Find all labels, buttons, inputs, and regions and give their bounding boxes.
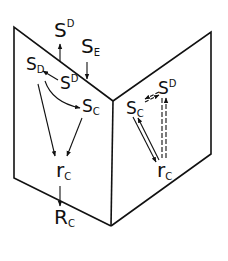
node-S-sub-C-right: SC (126, 100, 144, 117)
arrow-SC-to-rC-solid (133, 117, 156, 162)
label-base: r (157, 158, 165, 182)
label-base: S (60, 73, 71, 93)
label-base: S (54, 18, 67, 42)
folded-panel-diagram (0, 0, 228, 261)
node-S-sup-D-left: SD (60, 75, 79, 92)
label-sub: C (93, 106, 100, 117)
label-S-sub-E-outside: SE (81, 36, 100, 56)
label-sub: E (94, 47, 100, 58)
node-r-sub-C-left: rC (56, 160, 71, 180)
label-sub: C (137, 108, 144, 119)
fold-line (111, 101, 113, 226)
label-base: S (126, 98, 137, 118)
node-S-sub-C-left: SC (82, 98, 100, 115)
label-base: S (82, 96, 93, 116)
label-S-sup-D-outside: SD (54, 20, 74, 40)
label-R-sub-C-outside: RC (54, 207, 75, 227)
label-base: S (81, 34, 94, 58)
arrow-SC-to-rC (67, 118, 82, 156)
arrow-SD-to-rC (38, 84, 55, 156)
label-sub: C (68, 218, 75, 229)
label-sub: C (64, 171, 71, 182)
label-base: S (26, 54, 37, 74)
node-S-sup-D-right: SD (158, 80, 177, 97)
label-sup: D (71, 73, 79, 84)
arrow-rC-to-SC-solid (138, 118, 159, 160)
node-S-sub-D-left: SD (26, 56, 45, 73)
label-sub: C (165, 171, 172, 182)
right-panel-outline (111, 32, 211, 226)
label-sub: D (37, 64, 45, 75)
node-r-sub-C-right: rC (157, 160, 172, 180)
right-panel (111, 32, 211, 226)
label-base: S (158, 78, 169, 98)
arrow-SupD-to-SD (43, 71, 58, 80)
label-base: R (54, 205, 68, 229)
label-sup: D (67, 18, 75, 29)
label-base: r (56, 158, 64, 182)
label-sup: D (169, 78, 177, 89)
